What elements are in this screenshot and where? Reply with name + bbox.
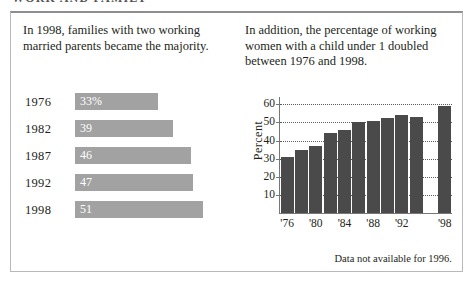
hbar-value-label: 33%	[80, 93, 102, 110]
gridline	[280, 104, 452, 105]
vbar	[295, 150, 308, 213]
left-caption: In 1998, families with two working marri…	[23, 23, 219, 54]
hbar-track: 51	[75, 201, 203, 218]
hbar-row: 199851	[11, 199, 233, 226]
vbar	[309, 146, 322, 213]
vbar	[352, 122, 365, 213]
hbar-row: 199247	[11, 172, 233, 199]
y-tick-mark	[276, 159, 280, 160]
y-tick-mark	[276, 141, 280, 142]
right-caption: In addition, the percentage of working w…	[245, 23, 450, 70]
y-tick-mark	[276, 177, 280, 178]
right-panel: In addition, the percentage of working w…	[233, 13, 464, 272]
hbar-year-label: 1998	[25, 203, 73, 218]
y-tick-label: 20	[264, 171, 276, 183]
y-tick-mark	[276, 195, 280, 196]
x-tick-label: '80	[309, 217, 323, 229]
hbar-row: 198746	[11, 145, 233, 172]
y-tick-label: 10	[264, 189, 276, 201]
hbar-track: 47	[75, 174, 193, 191]
figure-frame: In 1998, families with two working marri…	[10, 11, 463, 272]
vertical-bar-chart: Percent 102030405060'76'80'84'88'92'98	[239, 93, 461, 245]
hbar-track: 33%	[75, 93, 158, 110]
x-tick-label: '88	[366, 217, 380, 229]
hbar-fill: 51	[75, 201, 203, 218]
vbar	[338, 130, 351, 213]
vbar	[367, 121, 380, 213]
hbar-value-label: 47	[80, 174, 92, 191]
horizontal-bar-chart: 197633%198239198746199247199851	[11, 91, 233, 231]
vbar	[410, 117, 423, 213]
y-tick-mark	[276, 104, 280, 105]
y-tick-label: 60	[264, 99, 276, 111]
hbar-value-label: 39	[80, 120, 92, 137]
x-tick-label: '76	[280, 217, 294, 229]
chart-footnote: Data not available for 1996.	[335, 253, 453, 264]
hbar-row: 198239	[11, 118, 233, 145]
vbar	[381, 118, 394, 213]
vbar	[395, 115, 408, 213]
hbar-value-label: 46	[80, 147, 92, 164]
plot-area: 102030405060'76'80'84'88'92'98	[279, 97, 452, 214]
hbar-year-label: 1992	[25, 176, 73, 191]
hbar-track: 39	[75, 120, 173, 137]
y-tick-label: 30	[264, 153, 276, 165]
hbar-fill: 47	[75, 174, 193, 191]
vbar	[324, 133, 337, 213]
y-tick-mark	[276, 122, 280, 123]
hbar-row: 197633%	[11, 91, 233, 118]
hbar-year-label: 1987	[25, 149, 73, 164]
hbar-value-label: 51	[80, 201, 92, 218]
hbar-fill: 33%	[75, 93, 158, 110]
hbar-track: 46	[75, 147, 191, 164]
hbar-fill: 39	[75, 120, 173, 137]
left-panel: In 1998, families with two working marri…	[11, 13, 233, 272]
y-tick-label: 50	[264, 117, 276, 129]
x-tick-label: '84	[338, 217, 352, 229]
x-tick-label: '98	[438, 217, 452, 229]
hbar-year-label: 1982	[25, 122, 73, 137]
hbar-fill: 46	[75, 147, 191, 164]
y-tick-label: 40	[264, 135, 276, 147]
x-tick-label: '92	[395, 217, 409, 229]
vbar	[281, 157, 294, 213]
hbar-year-label: 1976	[25, 95, 73, 110]
vbar	[438, 106, 451, 213]
page-title: WORK AND FAMILY	[12, 0, 147, 6]
